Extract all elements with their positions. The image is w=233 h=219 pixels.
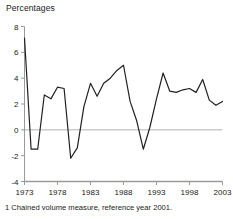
y-tick-label: 4 [14, 74, 19, 83]
data-series-group [25, 38, 223, 158]
data-line [25, 38, 223, 158]
y-tick-label: -4 [11, 178, 19, 187]
x-tick-label: 1973 [16, 188, 34, 197]
chart-page: Percentages 86420-2-4 197319781983198819… [0, 0, 233, 219]
y-tick-labels-group: 86420-2-4 [11, 23, 19, 187]
y-tick-label: -2 [11, 152, 19, 161]
x-tick-label: 1988 [115, 188, 133, 197]
y-tick-label: 8 [14, 23, 19, 32]
x-axis-group [25, 182, 223, 186]
x-tick-labels-group: 1973197819831988199319982003 [16, 188, 232, 197]
y-axis-group [21, 27, 25, 182]
x-tick-label: 2003 [214, 188, 232, 197]
footnote-text: 1 Chained volume measure, reference year… [5, 203, 172, 213]
y-tick-label: 6 [14, 48, 19, 57]
x-tick-label: 1978 [49, 188, 67, 197]
line-chart-svg: 86420-2-4 1973197819831988199319982003 [0, 0, 233, 200]
x-tick-label: 1993 [148, 188, 166, 197]
y-tick-label: 2 [14, 100, 19, 109]
y-tick-label: 0 [14, 126, 19, 135]
x-tick-label: 1998 [181, 188, 199, 197]
chart-plot-area: 86420-2-4 1973197819831988199319982003 [0, 0, 233, 200]
x-tick-label: 1983 [82, 188, 100, 197]
